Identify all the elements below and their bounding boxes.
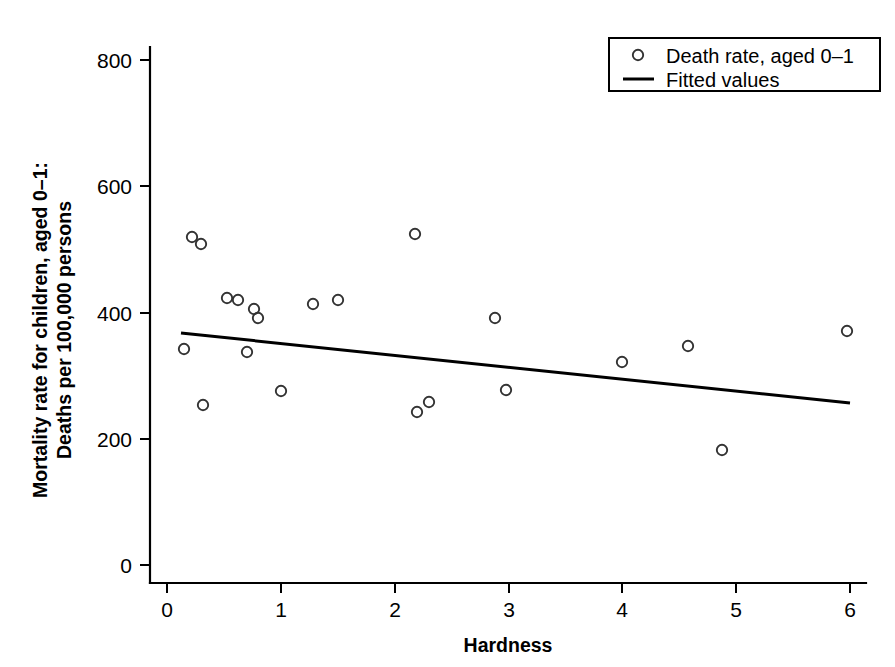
x-tick-label-2: 2	[389, 598, 401, 621]
scatter-plot: 0 200 400 600 800 0 1 2 3 4 5 6	[0, 0, 895, 667]
y-axis-ticks: 0 200 400 600 800	[97, 49, 150, 577]
fitted-values-line	[181, 333, 850, 403]
data-point	[842, 326, 852, 336]
x-tick-label-1: 1	[275, 598, 287, 621]
data-point	[412, 407, 422, 417]
data-point	[179, 344, 189, 354]
x-tick-label-3: 3	[503, 598, 515, 621]
data-point	[424, 397, 434, 407]
data-point	[187, 232, 197, 242]
data-point	[617, 357, 627, 367]
y-tick-label-600: 600	[97, 175, 132, 198]
legend-label-fitted-values: Fitted values	[666, 69, 779, 91]
data-point	[196, 239, 206, 249]
data-point	[242, 347, 252, 357]
data-point	[276, 386, 286, 396]
y-tick-label-0: 0	[120, 554, 132, 577]
x-axis-ticks: 0 1 2 3 4 5 6	[161, 583, 856, 621]
data-point	[717, 445, 727, 455]
x-tick-label-4: 4	[616, 598, 628, 621]
y-tick-label-400: 400	[97, 302, 132, 325]
data-point	[501, 385, 511, 395]
y-axis-title: Mortality rate for children, aged 0–1: D…	[29, 162, 75, 498]
x-axis-title: Hardness	[464, 634, 553, 656]
y-tick-label-800: 800	[97, 49, 132, 72]
y-tick-label-200: 200	[97, 428, 132, 451]
chart-figure: 0 200 400 600 800 0 1 2 3 4 5 6	[0, 0, 895, 667]
data-point	[490, 313, 500, 323]
data-point	[333, 295, 343, 305]
data-point	[410, 229, 420, 239]
chart-legend: Death rate, aged 0–1 Fitted values	[609, 38, 880, 91]
x-tick-label-6: 6	[844, 598, 856, 621]
x-tick-label-0: 0	[161, 598, 173, 621]
axes	[150, 47, 866, 583]
data-point	[198, 400, 208, 410]
x-tick-label-5: 5	[730, 598, 742, 621]
data-point	[308, 299, 318, 309]
y-axis-title-line1: Mortality rate for children, aged 0–1:	[29, 162, 51, 498]
legend-label-death-rate: Death rate, aged 0–1	[666, 45, 854, 67]
y-axis-title-line2: Deaths per 100,000 persons	[53, 201, 75, 459]
data-point	[222, 293, 232, 303]
data-point	[233, 295, 243, 305]
data-point	[253, 313, 263, 323]
data-point	[683, 341, 693, 351]
